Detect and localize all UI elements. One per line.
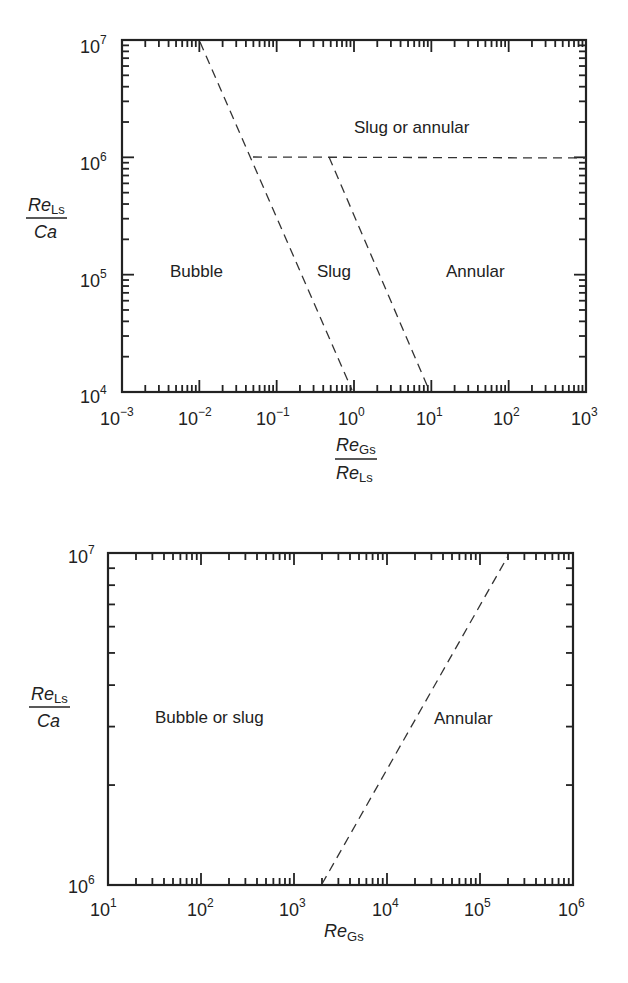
svg-text:104: 104 (372, 896, 399, 920)
region-slug: Slug (317, 262, 351, 281)
svg-text:ReGs: ReGs (336, 435, 376, 457)
svg-text:103: 103 (279, 896, 306, 920)
svg-text:103: 103 (571, 405, 598, 429)
svg-text:ReLs: ReLs (336, 463, 373, 485)
top-x-tick-labels: 10−3 10−2 10−1 100 101 102 103 (100, 405, 598, 429)
svg-text:102: 102 (493, 405, 520, 429)
bottom-x-axis-label: ReGs (324, 921, 364, 944)
svg-text:107: 107 (68, 543, 95, 567)
region-annular: Annular (446, 262, 505, 281)
svg-text:ReLs: ReLs (28, 195, 65, 217)
region-bubble: Bubble (170, 262, 223, 281)
svg-text:106: 106 (68, 873, 95, 897)
svg-text:101: 101 (416, 405, 443, 429)
svg-text:106: 106 (80, 150, 107, 174)
svg-text:100: 100 (338, 405, 365, 429)
top-y-axis-label: ReLs Ca (26, 195, 67, 242)
svg-text:104: 104 (80, 383, 107, 407)
svg-text:101: 101 (90, 896, 117, 920)
svg-text:102: 102 (187, 896, 214, 920)
bubble-slug-boundary (200, 42, 352, 390)
svg-text:Ca: Ca (37, 711, 60, 731)
svg-text:105: 105 (80, 267, 107, 291)
svg-text:105: 105 (464, 896, 491, 920)
flow-regime-figure: Slug or annular Bubble Slug Annular 107 … (0, 0, 628, 983)
bottom-x-tick-labels: 101 102 103 104 105 106 (90, 896, 585, 920)
region-slug-or-annular: Slug or annular (354, 118, 470, 137)
region-annular: Annular (434, 709, 493, 728)
svg-text:Ca: Ca (34, 222, 57, 242)
svg-text:106: 106 (558, 896, 585, 920)
bottom-plot: Bubble or slug Annular 107 106 101 102 1… (29, 543, 585, 944)
top-x-axis-label: ReGs ReLs (335, 435, 377, 485)
slug-or-annular-boundary (253, 157, 586, 158)
svg-text:ReGs: ReGs (324, 921, 364, 944)
region-bubble-or-slug: Bubble or slug (155, 708, 264, 727)
top-plot: Slug or annular Bubble Slug Annular 107 … (26, 33, 598, 485)
svg-text:10−1: 10−1 (256, 405, 290, 429)
svg-text:10−2: 10−2 (178, 405, 212, 429)
svg-text:107: 107 (80, 33, 107, 57)
top-y-tick-labels: 107 106 105 104 (80, 33, 107, 407)
svg-text:10−3: 10−3 (100, 405, 134, 429)
svg-text:ReLs: ReLs (31, 684, 68, 706)
bottom-y-axis-label: ReLs Ca (29, 684, 70, 731)
bottom-y-tick-labels: 107 106 (68, 543, 95, 897)
